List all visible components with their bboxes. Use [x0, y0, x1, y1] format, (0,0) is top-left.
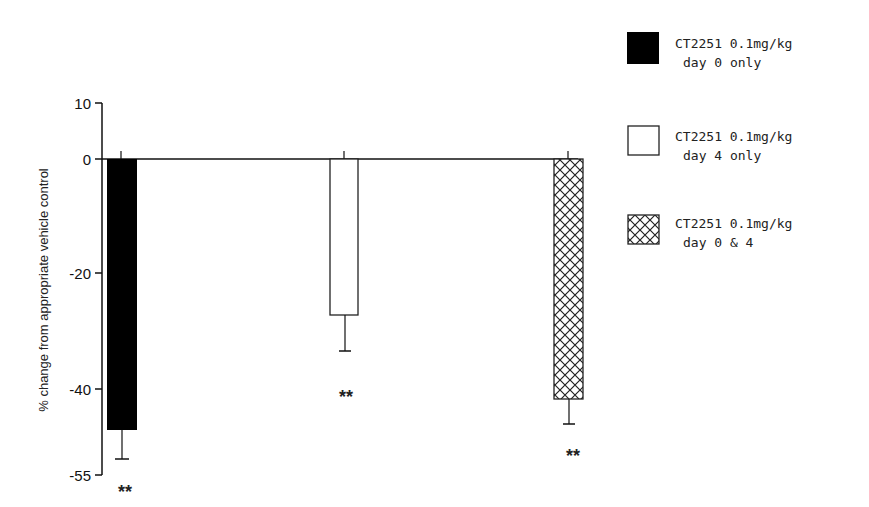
legend-swatch-solid [627, 32, 659, 64]
y-axis-label: % change from appropriate vehicle contro… [36, 168, 51, 412]
legend: CT2251 0.1mg/kg day 0 only CT2251 0.1mg/… [627, 32, 792, 250]
y-tick-minus-55: -55 [69, 467, 91, 484]
bar-day0-only: ** [107, 151, 137, 502]
chart-canvas: 10 0 -20 -40 -55 % change from appropria… [0, 0, 869, 507]
y-tick-minus-20: -20 [69, 265, 91, 282]
significance-stars: ** [118, 482, 132, 502]
y-tick-minus-40: -40 [69, 381, 91, 398]
y-axis: 10 0 -20 -40 -55 % change from appropria… [36, 95, 102, 484]
svg-text:CT2251 0.1mg/kg: CT2251 0.1mg/kg [675, 129, 792, 144]
bar-day0-and-4: ** [554, 151, 583, 466]
svg-text:day 0 & 4: day 0 & 4 [683, 235, 754, 250]
svg-text:CT2251 0.1mg/kg: CT2251 0.1mg/kg [675, 216, 792, 231]
significance-stars: ** [566, 446, 580, 466]
legend-swatch-crosshatch [628, 215, 659, 244]
bar-day4-only: ** [330, 151, 358, 407]
legend-item-day4-only: CT2251 0.1mg/kg day 4 only [628, 126, 792, 163]
y-tick-0: 0 [83, 151, 91, 168]
svg-text:day 0 only: day 0 only [683, 55, 761, 70]
svg-text:day 4 only: day 4 only [683, 148, 761, 163]
legend-swatch-white [628, 126, 659, 155]
significance-stars: ** [339, 387, 353, 407]
legend-item-day0-and-4: CT2251 0.1mg/kg day 0 & 4 [628, 215, 792, 250]
legend-item-day0-only: CT2251 0.1mg/kg day 0 only [627, 32, 792, 70]
y-tick-10: 10 [74, 95, 91, 112]
svg-text:CT2251 0.1mg/kg: CT2251 0.1mg/kg [675, 36, 792, 51]
